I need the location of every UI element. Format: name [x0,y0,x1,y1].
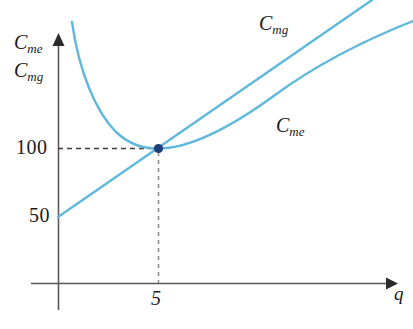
curve-label-marginal-sub: mg [272,22,288,37]
y-axis-label-cme-sub: me [27,41,42,56]
x-tick-label-5: 5 [151,287,162,310]
y-axis [53,33,65,310]
y-axis-label-cme-main: C [14,31,27,53]
curve-average-cost [72,21,413,149]
curve-label-marginal-cost: Cmg [259,12,288,35]
y-axis-label-cmg-main: C [14,59,27,81]
y-axis-label-cmg: Cmg [14,59,43,82]
chart-canvas [0,0,413,329]
y-tick-label-100: 100 [16,136,48,159]
curve-label-marginal-main: C [259,12,272,34]
y-axis-label-cme: Cme [14,31,43,54]
y-axis-label-cmg-sub: mg [27,69,43,84]
x-axis-label-q: q [394,283,404,305]
y-axis-arrowhead [53,33,65,46]
cost-curves-chart: Cme Cmg Cmg Cme 100 50 5 q [0,0,413,329]
curve-label-average-cost: Cme [276,114,305,137]
curve-label-average-sub: me [289,124,304,139]
x-axis [31,278,398,290]
equilibrium-point-marker [154,144,163,153]
curve-marginal-cost [58,0,372,217]
y-tick-label-50: 50 [29,204,50,227]
curve-label-average-main: C [276,114,289,136]
